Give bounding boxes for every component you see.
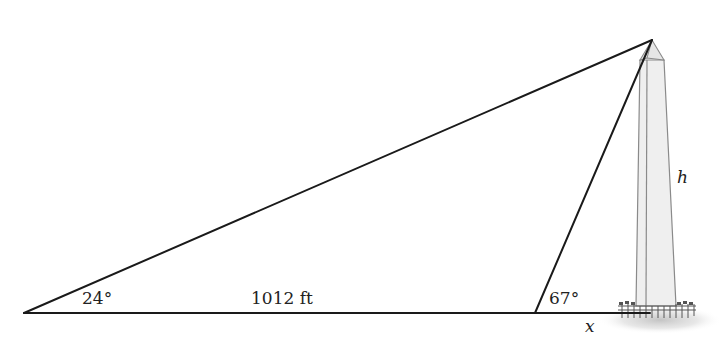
- monument-triangle-diagram: 24° 1012 ft 67° x h: [0, 0, 721, 353]
- base-distance-label: 1012 ft: [251, 290, 313, 307]
- triangle-lines: [24, 40, 652, 313]
- short-hypotenuse: [535, 40, 652, 313]
- obelisk-shaft: [636, 60, 676, 306]
- height-label: h: [677, 169, 688, 186]
- angle-left-label: 24°: [82, 290, 112, 307]
- x-distance-label: x: [585, 318, 595, 335]
- long-hypotenuse: [24, 40, 652, 313]
- angle-right-label: 67°: [549, 290, 579, 307]
